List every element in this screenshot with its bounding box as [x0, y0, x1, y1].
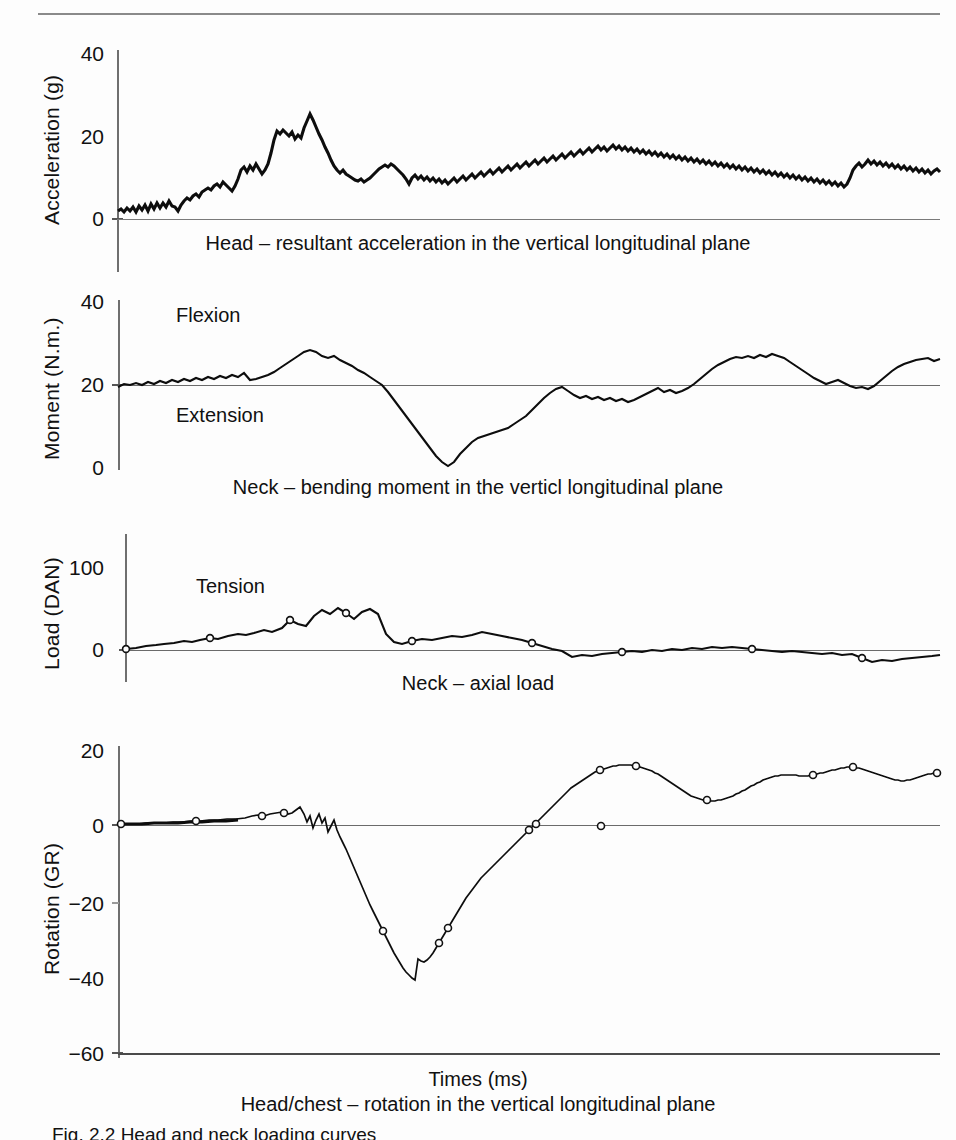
chart-panel-moment: Moment (N.m.) 40 20 0 Flexion Extension … — [0, 280, 956, 510]
chart1-trace — [118, 114, 940, 212]
chart4-caption: Head/chest – rotation in the vertical lo… — [0, 1093, 956, 1116]
figure-page: Acceleration (g) 40 20 0 Head – resultan… — [0, 0, 956, 1140]
chart-panel-rotation: Rotation (GR) 20 0 −20 −40 −60 — [0, 710, 956, 1140]
chart1-caption: Head – resultant acceleration in the ver… — [0, 232, 956, 255]
chart3-caption: Neck – axial load — [0, 672, 956, 695]
chart4-x-axis-title: Times (ms) — [0, 1068, 956, 1091]
chart-panel-acceleration: Acceleration (g) 40 20 0 Head – resultan… — [0, 0, 956, 280]
figure-caption: Fig. 2.2 Head and neck loading curves — [52, 1124, 376, 1140]
chart3-trace — [126, 608, 940, 662]
chart2-caption: Neck – bending moment in the verticl lon… — [0, 476, 956, 499]
chart4-trace-baseline — [119, 820, 238, 824]
chart2-trace — [118, 350, 940, 466]
chart4-markers — [118, 763, 941, 947]
chart-panel-load: Load (DAN) 100 0 Tension Neck – axial lo… — [0, 510, 956, 710]
chart4-trace — [119, 765, 940, 980]
